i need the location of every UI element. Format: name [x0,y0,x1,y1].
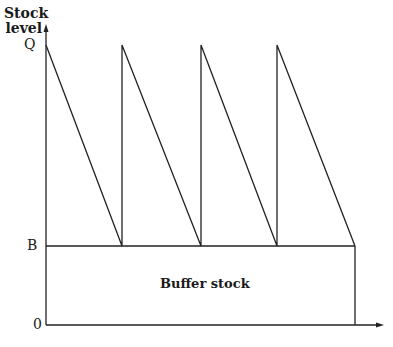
stock-level-sawtooth [46,45,355,246]
x-axis-arrow-icon [376,323,384,328]
sawtooth-diagram [0,0,393,347]
y-axis-arrow-icon [44,24,49,32]
